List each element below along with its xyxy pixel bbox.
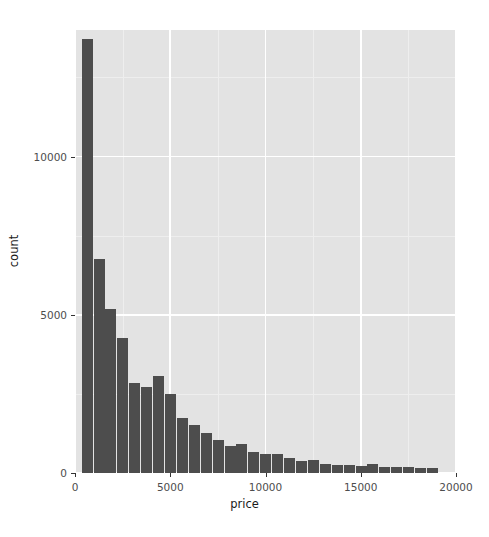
histogram-bar (415, 468, 426, 473)
y-axis-tick-label: 0 (0, 467, 67, 479)
histogram-bar (225, 446, 236, 473)
histogram-bar (320, 464, 331, 473)
histogram-bar (141, 387, 152, 473)
histogram-chart: 05000100001500020000 0500010000 price co… (0, 0, 489, 537)
y-axis-tick-label: 5000 (0, 309, 67, 321)
histogram-bar (94, 259, 105, 473)
histogram-bar (379, 467, 390, 473)
y-axis-title: count (7, 235, 21, 267)
x-axis-tick (456, 473, 457, 477)
histogram-bar (189, 425, 200, 473)
histogram-bar (201, 433, 212, 473)
x-axis-tick-label: 15000 (344, 481, 377, 493)
y-axis-tick (71, 315, 75, 316)
histogram-bar (165, 394, 176, 473)
histogram-bar (427, 468, 438, 473)
histogram-bar (272, 454, 283, 473)
y-axis-tick-label: 10000 (0, 151, 67, 163)
x-axis-tick-label: 0 (72, 481, 79, 493)
y-axis-tick (71, 473, 75, 474)
histogram-bar (403, 467, 414, 473)
histogram-bar (308, 460, 319, 473)
histogram-bar (296, 461, 307, 473)
histogram-bar (82, 39, 93, 473)
histogram-bar (356, 466, 367, 473)
histogram-bar (284, 458, 295, 473)
histogram-bar (367, 464, 378, 473)
histogram-bar (248, 452, 259, 473)
histogram-bar (105, 309, 116, 473)
x-axis-tick-label: 20000 (439, 481, 472, 493)
y-axis-tick (71, 157, 75, 158)
histogram-bar (177, 418, 188, 473)
histogram-bar (344, 465, 355, 473)
x-axis-tick (361, 473, 362, 477)
histogram-bar (260, 454, 271, 473)
x-axis-tick-label: 5000 (157, 481, 184, 493)
histogram-bar (236, 444, 247, 473)
plot-panel (75, 30, 456, 473)
bar-series (75, 30, 456, 473)
histogram-bar (391, 467, 402, 473)
x-axis-tick (75, 473, 76, 477)
x-axis-tick-label: 10000 (249, 481, 282, 493)
histogram-bar (117, 338, 128, 473)
histogram-bar (213, 440, 224, 473)
x-axis-tick (266, 473, 267, 477)
histogram-bar (153, 376, 164, 473)
histogram-bar (129, 383, 140, 473)
x-axis-tick (170, 473, 171, 477)
histogram-bar (332, 465, 343, 473)
x-axis-title: price (0, 497, 489, 511)
